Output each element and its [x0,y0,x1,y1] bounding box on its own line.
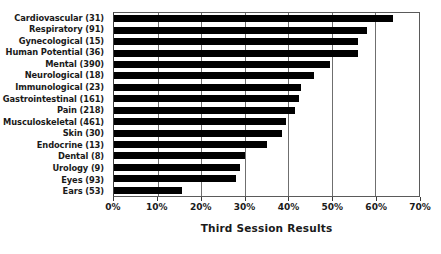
bar-row [114,50,419,57]
tick-label: 10% [146,202,168,212]
tick-mark [157,197,158,201]
tick-mark [201,197,202,201]
tick-label: 50% [322,202,344,212]
tick-label: 0% [105,202,120,212]
tick-mark [376,197,377,201]
tick-mark [420,197,421,201]
category-label: Neurological (18) [25,71,108,79]
tick-label: 20% [190,202,212,212]
bar-row [114,15,419,22]
tick-label: 60% [365,202,387,212]
bar-series [114,13,419,196]
category-label: Endocrine (13) [37,141,108,149]
tick-label: 40% [278,202,300,212]
bar [114,175,236,182]
bar [114,38,358,45]
bar [114,61,330,68]
x-axis-tick-marks [113,197,420,201]
bar [114,50,358,57]
bar [114,164,240,171]
bar [114,107,295,114]
category-label: Pain (218) [57,106,108,114]
bar [114,95,299,102]
plot-area [113,12,420,197]
category-label: Immunological (23) [15,83,108,91]
tick-label: 30% [234,202,256,212]
category-label: Urology (9) [52,164,108,172]
bar-row [114,27,419,34]
tick-mark [113,197,114,201]
bar-row [114,164,419,171]
bar-row [114,118,419,125]
category-label: Gastrointestinal (161) [3,95,108,103]
tick-mark [288,197,289,201]
bar-row [114,141,419,148]
category-label: Mental (390) [45,60,108,68]
bar-row [114,84,419,91]
category-label: Cardiovascular (31) [14,14,108,22]
bar-row [114,38,419,45]
bar [114,141,267,148]
bar [114,72,314,79]
tick-mark [332,197,333,201]
bar [114,130,282,137]
category-label: Ears (53) [63,187,108,195]
bar-row [114,61,419,68]
x-axis-title: Third Session Results [113,222,420,234]
category-label: Musculoskeletal (461) [3,118,108,126]
tick-mark [245,197,246,201]
bar-row [114,130,419,137]
category-label: Respiratory (91) [29,25,108,33]
bar [114,187,182,194]
category-label: Gynecological (15) [19,37,108,45]
category-label: Eyes (93) [61,176,108,184]
bar-row [114,72,419,79]
bar [114,118,286,125]
category-label: Skin (30) [63,129,108,137]
tick-label: 70% [409,202,431,212]
bar [114,152,245,159]
bar-row [114,175,419,182]
bar-row [114,152,419,159]
bar [114,15,393,22]
x-axis-tick-labels: 0%10%20%30%40%50%60%70% [113,202,420,216]
bar-row [114,187,419,194]
bar [114,84,301,91]
category-axis-labels: Cardiovascular (31)Respiratory (91)Gynec… [0,12,108,197]
category-label: Dental (8) [58,152,108,160]
bar-row [114,107,419,114]
category-label: Human Potential (36) [6,48,108,56]
bar-row [114,95,419,102]
bar-chart: Cardiovascular (31)Respiratory (91)Gynec… [0,0,441,254]
bar [114,27,367,34]
